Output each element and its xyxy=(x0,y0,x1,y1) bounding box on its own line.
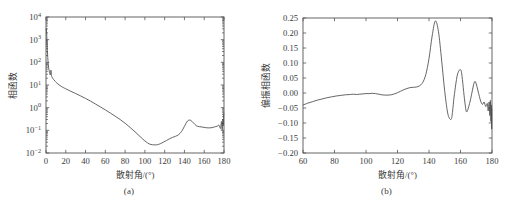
y-tick-label: 104 xyxy=(29,11,41,22)
y-tick-label: 101 xyxy=(29,79,41,90)
y-tick-label: 0.05 xyxy=(283,73,298,83)
x-tick-label: 120 xyxy=(391,156,404,166)
panel-a-caption: (a) xyxy=(0,186,258,196)
x-axis-title: 散射角/(°) xyxy=(378,169,417,180)
plot-frame xyxy=(46,17,224,153)
x-tick-label: 60 xyxy=(101,156,110,166)
y-tick-label: −0.15 xyxy=(278,133,298,143)
plot-frame xyxy=(303,18,492,153)
y-tick-label: 0.15 xyxy=(283,43,298,53)
y-tick-label: 0.10 xyxy=(283,58,298,68)
x-axis-title: 散射角/(°) xyxy=(116,169,155,180)
y-tick-label: 10−1 xyxy=(26,124,41,135)
x-tick-label: 140 xyxy=(423,156,436,166)
x-tick-label: 0 xyxy=(44,156,48,166)
x-tick-label: 60 xyxy=(299,156,308,166)
phase-function-plot: 02040608010012014016018010−210−110010110… xyxy=(0,0,258,215)
figure-root: 02040608010012014016018010−210−110010110… xyxy=(0,0,515,215)
x-tick-label: 140 xyxy=(178,156,191,166)
x-tick-label: 120 xyxy=(158,156,171,166)
x-tick-label: 100 xyxy=(360,156,373,166)
chart-panel-b: 60801001201401601800.250.200.150.100.050… xyxy=(258,0,515,215)
y-tick-label: 102 xyxy=(29,56,41,67)
y-tick-label: −0.10 xyxy=(278,118,298,128)
data-curve xyxy=(303,21,492,129)
x-tick-label: 80 xyxy=(330,156,339,166)
x-tick-label: 20 xyxy=(61,156,70,166)
y-tick-label: 0.20 xyxy=(283,28,298,38)
polarized-phase-function-plot: 60801001201401601800.250.200.150.100.050… xyxy=(258,0,515,215)
y-tick-label: −0.05 xyxy=(278,103,298,113)
x-tick-label: 40 xyxy=(81,156,90,166)
y-tick-label: 0.00 xyxy=(283,88,298,98)
x-tick-label: 160 xyxy=(454,156,467,166)
y-tick-label: 100 xyxy=(29,101,41,112)
y-tick-label: −0.20 xyxy=(278,148,298,158)
x-tick-label: 100 xyxy=(138,156,151,166)
y-tick-label: 10−2 xyxy=(26,147,41,158)
y-axis-title: 偏振相函数 xyxy=(260,63,271,108)
x-tick-label: 180 xyxy=(218,156,231,166)
panel-b-caption: (b) xyxy=(258,186,515,196)
x-tick-label: 180 xyxy=(486,156,499,166)
chart-panel-a: 02040608010012014016018010−210−110010110… xyxy=(0,0,258,215)
y-tick-label: 0.25 xyxy=(283,13,298,23)
x-tick-label: 160 xyxy=(198,156,211,166)
data-curve xyxy=(46,29,224,145)
y-axis-title: 相函数 xyxy=(7,72,18,99)
x-tick-label: 80 xyxy=(121,156,130,166)
y-tick-label: 103 xyxy=(29,33,41,44)
